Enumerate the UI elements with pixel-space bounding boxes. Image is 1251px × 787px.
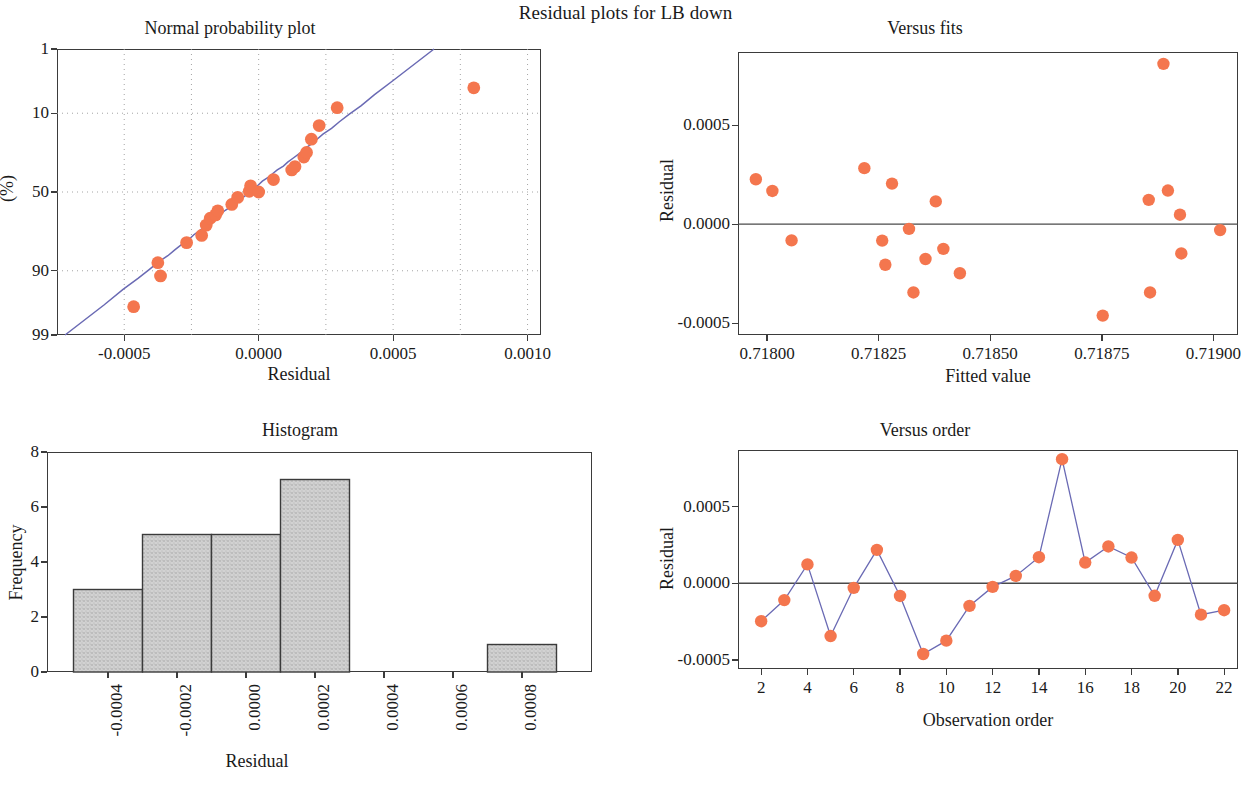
normal-plot-y-tick-label: 90: [5, 261, 49, 281]
versus-fits-point: [886, 177, 898, 189]
versus-fits-plot-area: [738, 52, 1238, 335]
normal-plot-point: [211, 204, 224, 217]
normal-plot-point: [180, 236, 193, 249]
versus-fits-point: [1144, 286, 1156, 298]
normal-plot-point: [300, 146, 313, 159]
histogram-x-tick-label: 0.0006: [452, 684, 472, 731]
normal-plot-x-tick-label: 0.0010: [504, 344, 551, 364]
axis-tick: [258, 335, 259, 341]
versus-order-point: [1102, 540, 1114, 552]
versus-fits-y-tick-label: -0.0005: [634, 313, 730, 333]
axis-tick: [1131, 669, 1132, 675]
versus-order-point: [755, 615, 767, 627]
histogram-title: Histogram: [0, 420, 610, 441]
axis-tick: [1177, 669, 1178, 675]
versus-order-point: [1056, 453, 1068, 465]
normal-plot-title: Normal probability plot: [0, 18, 540, 39]
axis-tick: [992, 669, 993, 675]
axis-tick: [41, 616, 47, 617]
versus-order-point: [963, 600, 975, 612]
versus-order-x-tick-label: 22: [1216, 678, 1233, 698]
normal-plot-x-tick-label: -0.0005: [98, 344, 150, 364]
versus-order-point: [1218, 604, 1230, 616]
axis-tick: [51, 270, 57, 271]
versus-order-x-tick-label: 10: [938, 678, 955, 698]
versus-order-y-tick-label: -0.0005: [634, 650, 730, 670]
normal-plot-point: [467, 81, 480, 94]
versus-order-title: Versus order: [735, 420, 1115, 441]
versus-fits-point: [766, 185, 778, 197]
versus-fits-point: [1162, 184, 1174, 196]
axis-tick: [990, 335, 991, 341]
versus-fits-point: [1097, 309, 1109, 321]
versus-fits-x-axis-title: Fitted value: [738, 366, 1238, 387]
versus-order-point: [778, 594, 790, 606]
panel-versus-fits: Versus fits 0.718000.718250.718500.71875…: [625, 18, 1251, 400]
histogram-bars: [74, 480, 557, 673]
panel-normal-probability-plot: Normal probability plot -0.00050.00000.0…: [0, 18, 620, 400]
versus-fits-x-tick-label: 0.71850: [963, 344, 1018, 364]
histogram-x-axis-title: Residual: [47, 751, 467, 772]
normal-plot-y-tick-label: 1: [5, 39, 49, 59]
axis-tick: [732, 125, 738, 126]
axis-tick: [41, 671, 47, 672]
versus-fits-point: [937, 243, 949, 255]
normal-plot-point: [154, 270, 167, 283]
versus-fits-point: [1175, 247, 1187, 259]
axis-tick: [41, 451, 47, 452]
axis-tick: [124, 335, 125, 341]
versus-fits-point: [1174, 208, 1186, 220]
normal-plot-point: [252, 186, 265, 199]
panel-versus-order: Versus order 2468101214161820220.00050.0…: [625, 420, 1251, 787]
axis-tick: [732, 583, 738, 584]
axis-tick: [51, 48, 57, 49]
versus-order-canvas: [738, 450, 1238, 669]
versus-order-point: [940, 634, 952, 646]
histogram-canvas: [47, 452, 592, 672]
histogram-bar: [143, 535, 212, 673]
axis-tick: [1213, 335, 1214, 341]
versus-order-point: [1125, 551, 1137, 563]
versus-order-x-axis-title: Observation order: [738, 710, 1238, 731]
versus-fits-point: [785, 234, 797, 246]
normal-plot-points: [127, 81, 480, 313]
axis-tick: [761, 669, 762, 675]
axis-tick: [51, 334, 57, 335]
versus-order-point: [1172, 534, 1184, 546]
normal-plot-point: [305, 133, 318, 146]
axis-tick: [51, 113, 57, 114]
versus-order-y-axis-title: Residual: [657, 499, 678, 619]
axis-tick: [899, 669, 900, 675]
versus-order-point: [1195, 608, 1207, 620]
versus-fits-point: [858, 162, 870, 174]
axis-tick: [107, 672, 108, 678]
normal-plot-point: [289, 160, 302, 173]
versus-fits-point: [1214, 224, 1226, 236]
versus-order-x-tick-label: 8: [896, 678, 905, 698]
histogram-x-tick-label: 0.0002: [314, 684, 334, 731]
axis-tick: [1038, 669, 1039, 675]
histogram-bar: [281, 480, 350, 673]
versus-fits-point: [903, 223, 915, 235]
versus-order-point: [894, 590, 906, 602]
versus-fits-y-tick-label: 0.0000: [634, 214, 730, 234]
normal-plot-y-tick-label: 99: [5, 325, 49, 345]
versus-fits-point: [879, 259, 891, 271]
versus-fits-point: [930, 195, 942, 207]
versus-order-y-tick-label: 0.0005: [634, 497, 730, 517]
versus-order-x-tick-label: 18: [1123, 678, 1140, 698]
versus-fits-point: [1157, 58, 1169, 70]
versus-fits-x-tick-label: 0.71800: [739, 344, 794, 364]
versus-order-x-tick-label: 14: [1030, 678, 1047, 698]
versus-fits-x-tick-label: 0.71875: [1074, 344, 1129, 364]
versus-order-point: [1033, 551, 1045, 563]
axis-tick: [766, 335, 767, 341]
normal-plot-x-tick-label: 0.0005: [370, 344, 417, 364]
versus-fits-points: [750, 58, 1227, 322]
axis-tick: [878, 335, 879, 341]
axis-tick: [946, 669, 947, 675]
axis-tick: [314, 672, 315, 678]
normal-plot-point: [151, 256, 164, 269]
versus-order-connecting-line: [761, 459, 1224, 654]
versus-order-x-tick-label: 20: [1169, 678, 1186, 698]
